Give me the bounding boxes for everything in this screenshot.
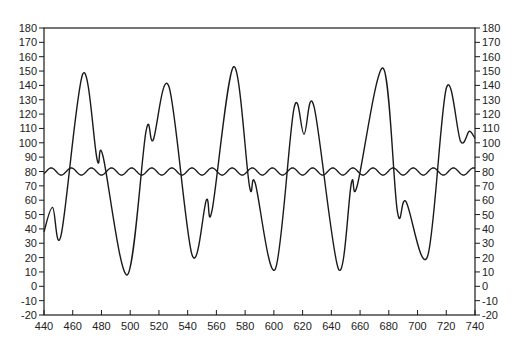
- y-tick-label-left: 140: [19, 79, 37, 91]
- y-tick-label-left: 30: [25, 237, 37, 249]
- y-tick-label-right: 70: [482, 180, 494, 192]
- y-tick-label-right: 150: [482, 65, 500, 77]
- axes: -20-20-10-100010102020303040405050606070…: [19, 22, 501, 332]
- y-tick-label-right: 20: [482, 252, 494, 264]
- y-tick-label-right: 110: [482, 122, 500, 134]
- y-tick-label-right: 170: [482, 36, 500, 48]
- y-tick-label-left: 170: [19, 36, 37, 48]
- x-tick-label: 640: [322, 320, 340, 332]
- y-tick-label-left: 60: [25, 194, 37, 206]
- y-tick-label-right: -10: [482, 295, 498, 307]
- y-tick-label-left: 160: [19, 51, 37, 63]
- x-tick-label: 600: [265, 320, 283, 332]
- y-tick-label-left: 50: [25, 209, 37, 221]
- x-tick-label: 520: [150, 320, 168, 332]
- y-tick-label-right: 90: [482, 151, 494, 163]
- y-tick-label-left: 90: [25, 151, 37, 163]
- y-tick-label-right: 40: [482, 223, 494, 235]
- y-tick-label-left: 70: [25, 180, 37, 192]
- y-tick-label-left: 100: [19, 137, 37, 149]
- y-tick-label-right: 80: [482, 166, 494, 178]
- x-tick-label: 580: [236, 320, 254, 332]
- y-tick-label-left: 20: [25, 252, 37, 264]
- y-tick-label-right: 100: [482, 137, 500, 149]
- series-line-signal: [44, 67, 475, 275]
- y-tick-label-left: 40: [25, 223, 37, 235]
- y-tick-label-right: 30: [482, 237, 494, 249]
- y-tick-label-right: 60: [482, 194, 494, 206]
- x-tick-label: 660: [351, 320, 369, 332]
- x-tick-label: 720: [437, 320, 455, 332]
- x-tick-label: 700: [408, 320, 426, 332]
- y-tick-label-left: 110: [19, 122, 37, 134]
- y-tick-label-right: 160: [482, 51, 500, 63]
- y-tick-label-left: 150: [19, 65, 37, 77]
- y-tick-label-right: 140: [482, 79, 500, 91]
- y-tick-label-left: 180: [19, 22, 37, 34]
- plot-frame: [44, 28, 475, 315]
- y-tick-label-left: -10: [21, 295, 37, 307]
- x-tick-label: 680: [380, 320, 398, 332]
- x-tick-label: 740: [466, 320, 484, 332]
- y-tick-label-right: 0: [482, 280, 488, 292]
- x-tick-label: 440: [35, 320, 53, 332]
- chart: -20-20-10-100010102020303040405050606070…: [0, 0, 517, 351]
- x-tick-label: 500: [121, 320, 139, 332]
- y-tick-label-left: 80: [25, 166, 37, 178]
- y-tick-label-right: -20: [482, 309, 498, 321]
- x-tick-label: 620: [293, 320, 311, 332]
- y-tick-label-left: 120: [19, 108, 37, 120]
- x-tick-label: 460: [64, 320, 82, 332]
- y-tick-label-right: 50: [482, 209, 494, 221]
- y-tick-label-left: 10: [25, 266, 37, 278]
- series-line-oscillation: [44, 168, 475, 175]
- y-tick-label-left: 0: [31, 280, 37, 292]
- y-tick-label-left: 130: [19, 94, 37, 106]
- y-tick-label-right: 130: [482, 94, 500, 106]
- x-tick-label: 560: [207, 320, 225, 332]
- y-tick-label-right: 120: [482, 108, 500, 120]
- x-tick-label: 480: [92, 320, 110, 332]
- y-tick-label-right: 10: [482, 266, 494, 278]
- x-tick-label: 540: [178, 320, 196, 332]
- series-group: [44, 67, 475, 275]
- y-tick-label-right: 180: [482, 22, 500, 34]
